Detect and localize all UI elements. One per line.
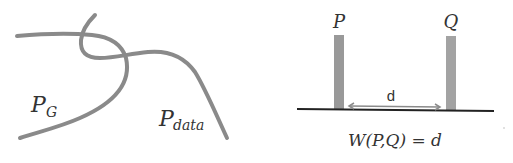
- stray-dot: [503, 127, 505, 129]
- bar-p: [334, 35, 344, 110]
- curve-p-g: [17, 34, 127, 138]
- curve-p-data: [81, 15, 227, 138]
- bar-q: [446, 36, 456, 111]
- wasserstein-diagram: d P Q W(P,Q) = d: [297, 11, 505, 150]
- label-p-data-subscript: data: [173, 117, 204, 133]
- diagram-canvas: P G P data d P Q W(P,Q) = d: [0, 0, 513, 163]
- baseline: [297, 109, 494, 111]
- label-p-g-subscript: G: [46, 104, 57, 120]
- bar-p-label: P: [332, 11, 346, 32]
- formula-label: W(P,Q) = d: [348, 130, 442, 150]
- distance-label: d: [387, 87, 395, 104]
- label-p-g: P G: [30, 92, 57, 120]
- bar-q-label: Q: [444, 11, 459, 32]
- label-p-data: P data: [158, 106, 204, 133]
- label-p-g-main: P: [30, 92, 47, 117]
